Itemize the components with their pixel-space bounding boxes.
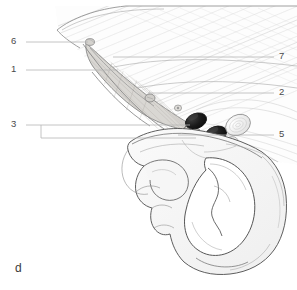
label-6: 6 [11,36,16,46]
label-5: 5 [279,129,284,139]
label-2: 2 [279,87,284,97]
label-7: 7 [279,51,284,61]
anatomical-illustration [0,0,297,290]
panel-letter: d [15,262,22,274]
anatomical-figure-panel: 6 1 3 7 2 5 d [0,0,297,290]
label-3: 3 [11,119,16,129]
label-1: 1 [11,64,16,74]
